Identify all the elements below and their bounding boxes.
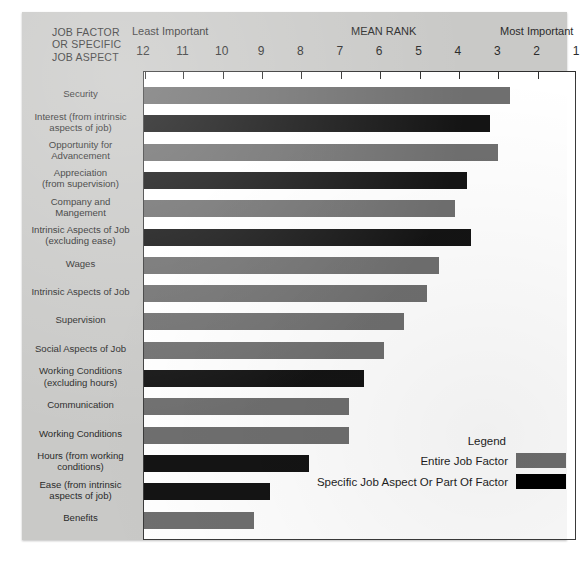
category-label-line: Appreciation <box>24 167 137 178</box>
bar-company-and-mangement[interactable] <box>144 200 455 217</box>
legend-swatch-specific-job-aspect <box>516 474 566 489</box>
category-label-line: Wages <box>24 258 137 269</box>
category-label-ease-from-intrinsic-aspects-of-job: Ease (from intrinsicaspects of job) <box>24 479 137 501</box>
category-label-line: Intrinsic Aspects of Job <box>24 224 137 235</box>
category-label-line: Social Aspects of Job <box>24 343 137 354</box>
x-tick-label-4: 4 <box>455 44 462 58</box>
category-label-line: aspects of job) <box>24 122 137 133</box>
plot-area: Legend Entire Job Factor Specific Job As… <box>143 71 576 540</box>
y-axis-category-labels: SecurityInterest (from intrinsicaspects … <box>22 71 143 540</box>
bar-security[interactable] <box>144 87 510 104</box>
category-label-line: (excluding ease) <box>24 235 137 246</box>
bar-working-conditions-excluding-hours[interactable] <box>144 370 364 387</box>
bar-opportunity-for-advancement[interactable] <box>144 144 498 161</box>
axis-caption-least-important: Least Important <box>132 25 208 37</box>
bar-intrinsic-aspects-of-job-excluding-ease[interactable] <box>144 229 471 246</box>
axis-corner-title-line-1: JOB FACTOR <box>52 26 134 38</box>
category-label-intrinsic-aspects-of-job-excluding-ease: Intrinsic Aspects of Job(excluding ease) <box>24 224 137 246</box>
x-tick-label-7: 7 <box>336 44 343 58</box>
category-label-interest-from-intrinsic-aspects-of-job: Interest (from intrinsicaspects of job) <box>24 111 137 133</box>
x-axis-tick-labels: 121110987654321 <box>22 44 587 60</box>
category-label-line: Security <box>24 88 137 99</box>
category-label-working-conditions-excluding-hours: Working Conditions(excluding hours) <box>24 365 137 387</box>
axis-caption-most-important: Most Important <box>500 25 573 37</box>
category-label-line: Benefits <box>24 512 137 523</box>
category-label-working-conditions: Working Conditions <box>24 428 137 439</box>
x-tick-label-3: 3 <box>494 44 501 58</box>
x-tick-label-6: 6 <box>376 44 383 58</box>
category-label-line: Interest (from intrinsic <box>24 111 137 122</box>
category-label-line: conditions) <box>24 461 137 472</box>
category-label-line: Working Conditions <box>24 428 137 439</box>
category-label-line: Advancement <box>24 150 137 161</box>
bar-social-aspects-of-job[interactable] <box>144 342 384 359</box>
bar-communication[interactable] <box>144 398 349 415</box>
category-label-line: Mangement <box>24 207 137 218</box>
category-label-line: (excluding hours) <box>24 377 137 388</box>
figure-root: JOB FACTOROR SPECIFICJOB ASPECT Least Im… <box>0 0 587 561</box>
category-label-social-aspects-of-job: Social Aspects of Job <box>24 343 137 354</box>
bar-intrinsic-aspects-of-job[interactable] <box>144 285 427 302</box>
x-tick-label-10: 10 <box>215 44 228 58</box>
bar-benefits[interactable] <box>144 512 254 529</box>
bar-wages[interactable] <box>144 257 439 274</box>
legend-swatch-entire-job-factor <box>516 453 566 468</box>
category-label-line: Communication <box>24 399 137 410</box>
category-label-intrinsic-aspects-of-job: Intrinsic Aspects of Job <box>24 286 137 297</box>
legend-item-specific-job-aspect: Specific Job Aspect Or Part Of Factor <box>248 474 566 489</box>
x-tick-label-11: 11 <box>176 44 188 58</box>
category-label-line: Working Conditions <box>24 365 137 376</box>
category-label-appreciation-from-supervision: Appreciation(from supervision) <box>24 167 137 189</box>
category-label-communication: Communication <box>24 399 137 410</box>
category-label-line: (from supervision) <box>24 178 137 189</box>
legend-label-specific-job-aspect: Specific Job Aspect Or Part Of Factor <box>317 476 508 488</box>
bar-supervision[interactable] <box>144 313 404 330</box>
category-label-hours-from-working-conditions: Hours (from workingconditions) <box>24 450 137 472</box>
legend-item-entire-job-factor: Entire Job Factor <box>248 453 566 468</box>
bar-interest-from-intrinsic-aspects-of-job[interactable] <box>144 115 490 132</box>
x-tick-label-8: 8 <box>297 44 304 58</box>
x-tick-label-2: 2 <box>533 44 540 58</box>
category-label-security: Security <box>24 88 137 99</box>
category-label-opportunity-for-advancement: Opportunity forAdvancement <box>24 139 137 161</box>
legend: Legend Entire Job Factor Specific Job As… <box>248 435 566 495</box>
category-label-line: Intrinsic Aspects of Job <box>24 286 137 297</box>
x-tick-label-9: 9 <box>258 44 265 58</box>
category-label-line: Company and <box>24 196 137 207</box>
x-tick-label-1: 1 <box>573 44 580 58</box>
bar-appreciation-from-supervision[interactable] <box>144 172 467 189</box>
legend-label-entire-job-factor: Entire Job Factor <box>420 455 508 467</box>
x-tick-label-5: 5 <box>415 44 422 58</box>
category-label-wages: Wages <box>24 258 137 269</box>
category-label-line: Ease (from intrinsic <box>24 479 137 490</box>
category-label-line: Hours (from working <box>24 450 137 461</box>
x-tick-label-12: 12 <box>136 44 149 58</box>
category-label-company-and-mangement: Company andMangement <box>24 196 137 218</box>
chart-paper: JOB FACTOROR SPECIFICJOB ASPECT Least Im… <box>22 12 567 540</box>
category-label-benefits: Benefits <box>24 512 137 523</box>
category-label-supervision: Supervision <box>24 314 137 325</box>
axis-title-mean-rank: MEAN RANK <box>351 25 416 37</box>
category-label-line: aspects of job) <box>24 490 137 501</box>
category-label-line: Supervision <box>24 314 137 325</box>
legend-title: Legend <box>248 435 506 447</box>
category-label-line: Opportunity for <box>24 139 137 150</box>
